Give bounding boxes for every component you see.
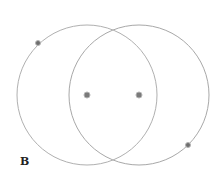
figure-label: B <box>20 155 29 168</box>
left-circle-point <box>36 41 41 46</box>
diagram-canvas <box>0 0 219 174</box>
right-circle-point <box>186 143 191 148</box>
right-center-point <box>136 92 142 98</box>
left-center-point <box>84 92 90 98</box>
